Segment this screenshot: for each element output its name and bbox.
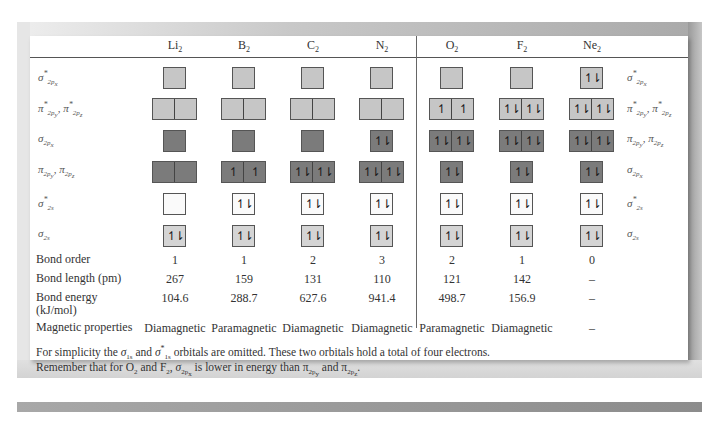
column-header-ne2: Ne2 xyxy=(557,38,627,54)
orbital-label-left: σ2px xyxy=(38,132,54,150)
electron-pair-icon: ↿⇂ xyxy=(591,131,613,151)
frame-left-edge xyxy=(17,22,30,367)
single-electron-icon: ↿ xyxy=(451,99,473,119)
electron-pair-icon: ↿⇂ xyxy=(521,131,543,151)
molecule-subscript: 2 xyxy=(454,45,458,54)
electron-pair-icon: ↿⇂ xyxy=(312,162,334,182)
orbital-box: ↿⇂ xyxy=(370,225,393,247)
column-header-n2: N2 xyxy=(347,38,417,54)
single-electron-icon: ↿ xyxy=(430,99,451,119)
orbital-box: ↿⇂ xyxy=(510,225,533,247)
electron-pair-icon: ↿⇂ xyxy=(302,194,323,214)
property-value: 159 xyxy=(206,272,282,287)
empty-orbital xyxy=(164,68,185,88)
orbital-label-right: π*2py, π*2pz xyxy=(627,100,671,119)
molecule-subscript: 2 xyxy=(384,45,388,54)
property-value: 1 xyxy=(137,253,213,268)
property-value: 267 xyxy=(137,272,213,287)
electron-pair-icon: ↿⇂ xyxy=(581,162,602,182)
column-header-o2: O2 xyxy=(417,38,487,54)
electron-pair-icon: ↿⇂ xyxy=(371,194,392,214)
empty-orbital xyxy=(371,68,392,88)
empty-orbital xyxy=(360,99,381,119)
empty-orbital xyxy=(174,162,196,182)
property-value: 0 xyxy=(554,253,630,268)
molecule-subscript: 2 xyxy=(246,45,250,54)
property-value: 3 xyxy=(344,253,420,268)
orbital-box: ↿⇂ xyxy=(510,161,533,183)
orbital-box xyxy=(290,98,335,120)
orbital-box: ↿⇂ xyxy=(440,193,463,215)
property-value: Diamagnetic xyxy=(344,321,420,336)
orbital-label-left: σ*2s xyxy=(38,195,54,212)
orbital-box: ↿⇂ xyxy=(163,225,186,247)
orbital-box xyxy=(163,130,186,152)
property-value: 2 xyxy=(414,253,490,268)
orbital-box xyxy=(163,193,186,215)
electron-pair-icon: ↿⇂ xyxy=(521,99,543,119)
column-header-c2: C2 xyxy=(278,38,348,54)
molecule-subscript: 2 xyxy=(315,45,319,54)
property-value: – xyxy=(554,291,630,306)
frame-bottom-bar xyxy=(17,402,702,412)
property-value: – xyxy=(554,272,630,287)
orbital-box xyxy=(301,130,324,152)
orbital-label-right: σ*2px xyxy=(627,69,647,88)
orbital-box xyxy=(440,67,463,89)
electron-pair-icon: ↿⇂ xyxy=(233,194,254,214)
orbital-label-right: σ2px xyxy=(627,163,643,181)
orbital-box: ↿⇂↿⇂ xyxy=(499,98,544,120)
property-value: 142 xyxy=(484,272,560,287)
electron-pair-icon: ↿⇂ xyxy=(451,131,473,151)
electron-pair-icon: ↿⇂ xyxy=(581,226,602,246)
single-electron-icon: ↿ xyxy=(243,162,265,182)
orbital-box: ↿⇂ xyxy=(580,225,603,247)
electron-pair-icon: ↿⇂ xyxy=(164,226,185,246)
orbital-box xyxy=(152,98,197,120)
property-value: 156.9 xyxy=(484,291,560,306)
property-value: 121 xyxy=(414,272,490,287)
electron-pair-icon: ↿⇂ xyxy=(371,226,392,246)
empty-orbital xyxy=(312,99,334,119)
empty-orbital xyxy=(164,131,185,151)
molecule-symbol: B xyxy=(238,38,246,52)
footnote-line: For simplicity the σ1s and σ*1s orbitals… xyxy=(36,344,490,361)
property-value: 288.7 xyxy=(206,291,282,306)
header-rule xyxy=(30,57,688,58)
molecule-subscript: 2 xyxy=(178,45,182,54)
single-electron-icon: ↿ xyxy=(222,162,243,182)
column-header-li2: Li2 xyxy=(140,38,210,54)
orbital-box xyxy=(301,67,324,89)
column-header-f2: F2 xyxy=(487,38,557,54)
electron-pair-icon: ↿⇂ xyxy=(441,226,462,246)
empty-orbital xyxy=(291,99,312,119)
orbital-box: ↿⇂↿⇂ xyxy=(569,130,614,152)
orbital-box xyxy=(163,67,186,89)
empty-orbital xyxy=(174,99,196,119)
empty-orbital xyxy=(243,99,265,119)
empty-orbital xyxy=(153,162,174,182)
orbital-box xyxy=(232,130,255,152)
electron-pair-icon: ↿⇂ xyxy=(233,226,254,246)
orbital-box: ↿⇂ xyxy=(301,193,324,215)
empty-orbital xyxy=(302,131,323,151)
property-value: – xyxy=(554,321,630,336)
orbital-label-left: π2py, π2pz xyxy=(38,163,74,181)
electron-pair-icon: ↿⇂ xyxy=(570,131,591,151)
property-value: Diamagnetic xyxy=(137,321,213,336)
electron-pair-icon: ↿⇂ xyxy=(381,162,403,182)
orbital-box: ↿⇂ xyxy=(232,193,255,215)
frame-right-edge xyxy=(688,22,702,377)
orbital-label-right: σ*2s xyxy=(627,195,643,212)
electron-pair-icon: ↿⇂ xyxy=(291,162,312,182)
orbital-box: ↿↿ xyxy=(221,161,266,183)
property-value: 498.7 xyxy=(414,291,490,306)
electron-pair-icon: ↿⇂ xyxy=(371,131,392,151)
molecule-symbol: Li xyxy=(168,38,179,52)
orbital-label-left: π*2py, π*2pz xyxy=(38,100,82,119)
orbital-box: ↿⇂ xyxy=(580,67,603,89)
property-label: Bond length (pm) xyxy=(36,272,121,285)
orbital-box: ↿⇂ xyxy=(580,161,603,183)
orbital-box xyxy=(510,67,533,89)
property-value: 627.6 xyxy=(275,291,351,306)
